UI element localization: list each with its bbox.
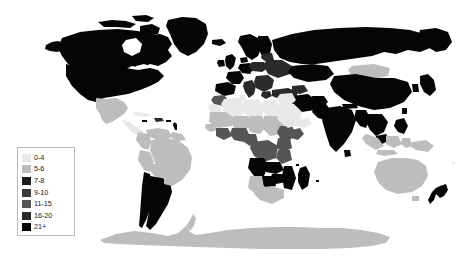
country-denmark	[240, 57, 248, 63]
world-choropleth-map-figure: 0-4 5-6 7-8 9-10 11-15 16-20 21+	[0, 0, 465, 257]
legend-label-21-plus: 21+	[34, 223, 46, 231]
legend-swatch-9-10	[22, 189, 31, 197]
country-sri-lanka	[344, 150, 351, 157]
legend-swatch-7-8	[22, 177, 31, 185]
legend-item-6: 21+	[22, 222, 74, 234]
legend-swatch-5-6	[22, 165, 31, 173]
legend-swatch-11-15	[22, 200, 31, 208]
island-mauritius	[316, 180, 319, 182]
legend-label-11-15: 11-15	[34, 200, 52, 208]
island-fiji	[452, 162, 455, 164]
legend-swatch-0-4	[22, 154, 31, 162]
legend-label-9-10: 9-10	[34, 189, 48, 197]
country-south-korea	[412, 84, 419, 92]
legend-item-2: 7-8	[22, 175, 74, 187]
legend-label-5-6: 5-6	[34, 165, 44, 173]
country-taiwan	[402, 108, 407, 114]
island-puerto-rico	[166, 120, 171, 122]
legend-item-3: 9-10	[22, 187, 74, 199]
island-jamaica	[142, 120, 147, 122]
legend-label-7-8: 7-8	[34, 177, 44, 185]
legend-swatch-21-plus	[22, 223, 31, 231]
legend-item-4: 11-15	[22, 198, 74, 210]
island-comoros	[296, 164, 299, 166]
legend-item-5: 16-20	[22, 210, 74, 222]
legend-label-16-20: 16-20	[34, 212, 52, 220]
country-tasmania	[412, 196, 419, 201]
legend-swatch-16-20	[22, 212, 31, 220]
map-legend: 0-4 5-6 7-8 9-10 11-15 16-20 21+	[17, 147, 75, 236]
legend-item-1: 5-6	[22, 164, 74, 176]
legend-item-0: 0-4	[22, 152, 74, 164]
legend-label-0-4: 0-4	[34, 154, 44, 162]
